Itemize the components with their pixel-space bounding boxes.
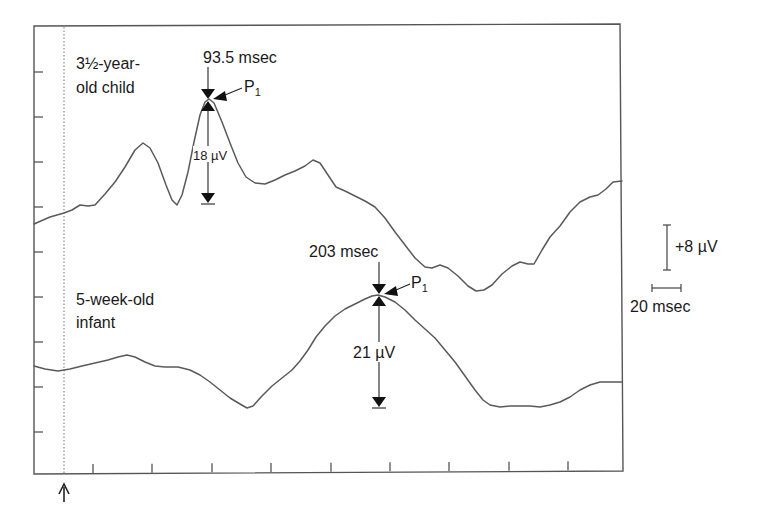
erp-waveform-chart: 3½-year- old child 93.5 msec 18 µV P1 5-… (0, 0, 760, 526)
down-arrowhead-icon (372, 284, 386, 294)
child-label-line2: old child (76, 79, 135, 96)
voltage-scale-label: +8 µV (675, 238, 718, 255)
infant-peak-label: P1 (411, 274, 428, 294)
child-amplitude-label: 18 µV (193, 148, 228, 163)
infant-waveform-trace (34, 295, 622, 408)
child-label-line1: 3½-year- (76, 55, 140, 72)
time-scale-bar: 20 msec (630, 284, 690, 315)
up-arrowhead-icon (372, 296, 386, 306)
child-peak-label: P1 (244, 78, 261, 98)
p1-pointer-arrowhead-icon (384, 286, 398, 296)
infant-p1-annotation: 203 msec 21 µV P1 (309, 243, 428, 408)
down-arrowhead-icon (201, 193, 215, 203)
y-axis-ticks (34, 72, 43, 432)
child-latency-label: 93.5 msec (203, 49, 277, 66)
infant-latency-label: 203 msec (309, 243, 378, 260)
stimulus-onset-arrow-icon (59, 484, 69, 502)
child-waveform-trace (34, 99, 622, 291)
child-p1-annotation: 93.5 msec 18 µV P1 (193, 49, 277, 204)
time-scale-label: 20 msec (630, 298, 690, 315)
infant-label-line2: infant (76, 314, 116, 331)
voltage-scale-bar: +8 µV (663, 225, 718, 270)
infant-amplitude-label: 21 µV (353, 344, 395, 361)
down-arrowhead-icon (372, 397, 386, 407)
down-arrowhead-icon (201, 89, 215, 99)
p1-pointer-arrowhead-icon (213, 91, 227, 101)
infant-label-line1: 5-week-old (76, 291, 154, 308)
